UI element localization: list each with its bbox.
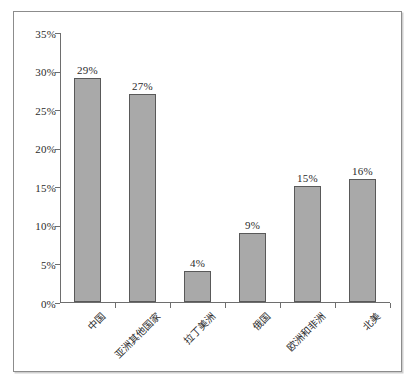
x-tick-mark-0	[115, 303, 116, 308]
bar-value-label: 4%	[190, 257, 205, 269]
x-category-label-0: 中国	[83, 308, 108, 333]
y-axis-line	[60, 33, 61, 303]
bar-value-label: 9%	[245, 219, 260, 231]
x-category-label-4: 欧洲和非洲	[282, 308, 328, 354]
y-tick-4: 20%	[60, 149, 61, 150]
x-category-label-3: 俄国	[248, 308, 273, 333]
x-tick-mark-4	[335, 303, 336, 308]
x-category-label-5: 北美	[358, 308, 383, 333]
bar-1: 27%	[129, 94, 156, 302]
x-tick-mark-2	[225, 303, 226, 308]
y-tick-0: 0%	[60, 303, 61, 304]
bar-4: 15%	[294, 186, 321, 302]
bar-5: 16%	[349, 179, 376, 302]
y-tick-1: 5%	[60, 264, 61, 265]
y-tick-label: 20%	[35, 143, 56, 155]
y-tick-label: 15%	[35, 182, 56, 194]
y-tick-7: 35%	[60, 33, 61, 34]
bar-0: 29%	[74, 78, 101, 302]
y-tick-2: 10%	[60, 226, 61, 227]
x-category-label-1: 亚洲其他国家	[110, 308, 163, 361]
x-tick-mark-3	[280, 303, 281, 308]
y-tick-3: 15%	[60, 187, 61, 188]
bar-value-label: 27%	[132, 80, 153, 92]
bar-value-label: 29%	[77, 64, 98, 76]
chart-frame: 0%5%10%15%20%25%30%35% 29%27%4%9%15%16% …	[13, 11, 402, 372]
x-tick-mark-1	[170, 303, 171, 308]
bar-value-label: 15%	[297, 172, 318, 184]
bar-2: 4%	[184, 271, 211, 302]
y-tick-label: 30%	[35, 66, 56, 78]
bar-value-label: 16%	[352, 165, 373, 177]
plot-area: 0%5%10%15%20%25%30%35% 29%27%4%9%15%16%	[60, 33, 390, 303]
y-tick-label: 10%	[35, 220, 56, 232]
x-tick-mark-5	[390, 303, 391, 308]
y-tick-label: 35%	[35, 28, 56, 40]
bar-3: 9%	[239, 233, 266, 302]
y-tick-5: 25%	[60, 110, 61, 111]
y-tick-label: 25%	[35, 105, 56, 117]
y-tick-label: 0%	[41, 298, 56, 310]
y-tick-label: 5%	[41, 259, 56, 271]
y-tick-6: 30%	[60, 72, 61, 73]
x-category-label-2: 拉丁美洲	[179, 308, 218, 347]
